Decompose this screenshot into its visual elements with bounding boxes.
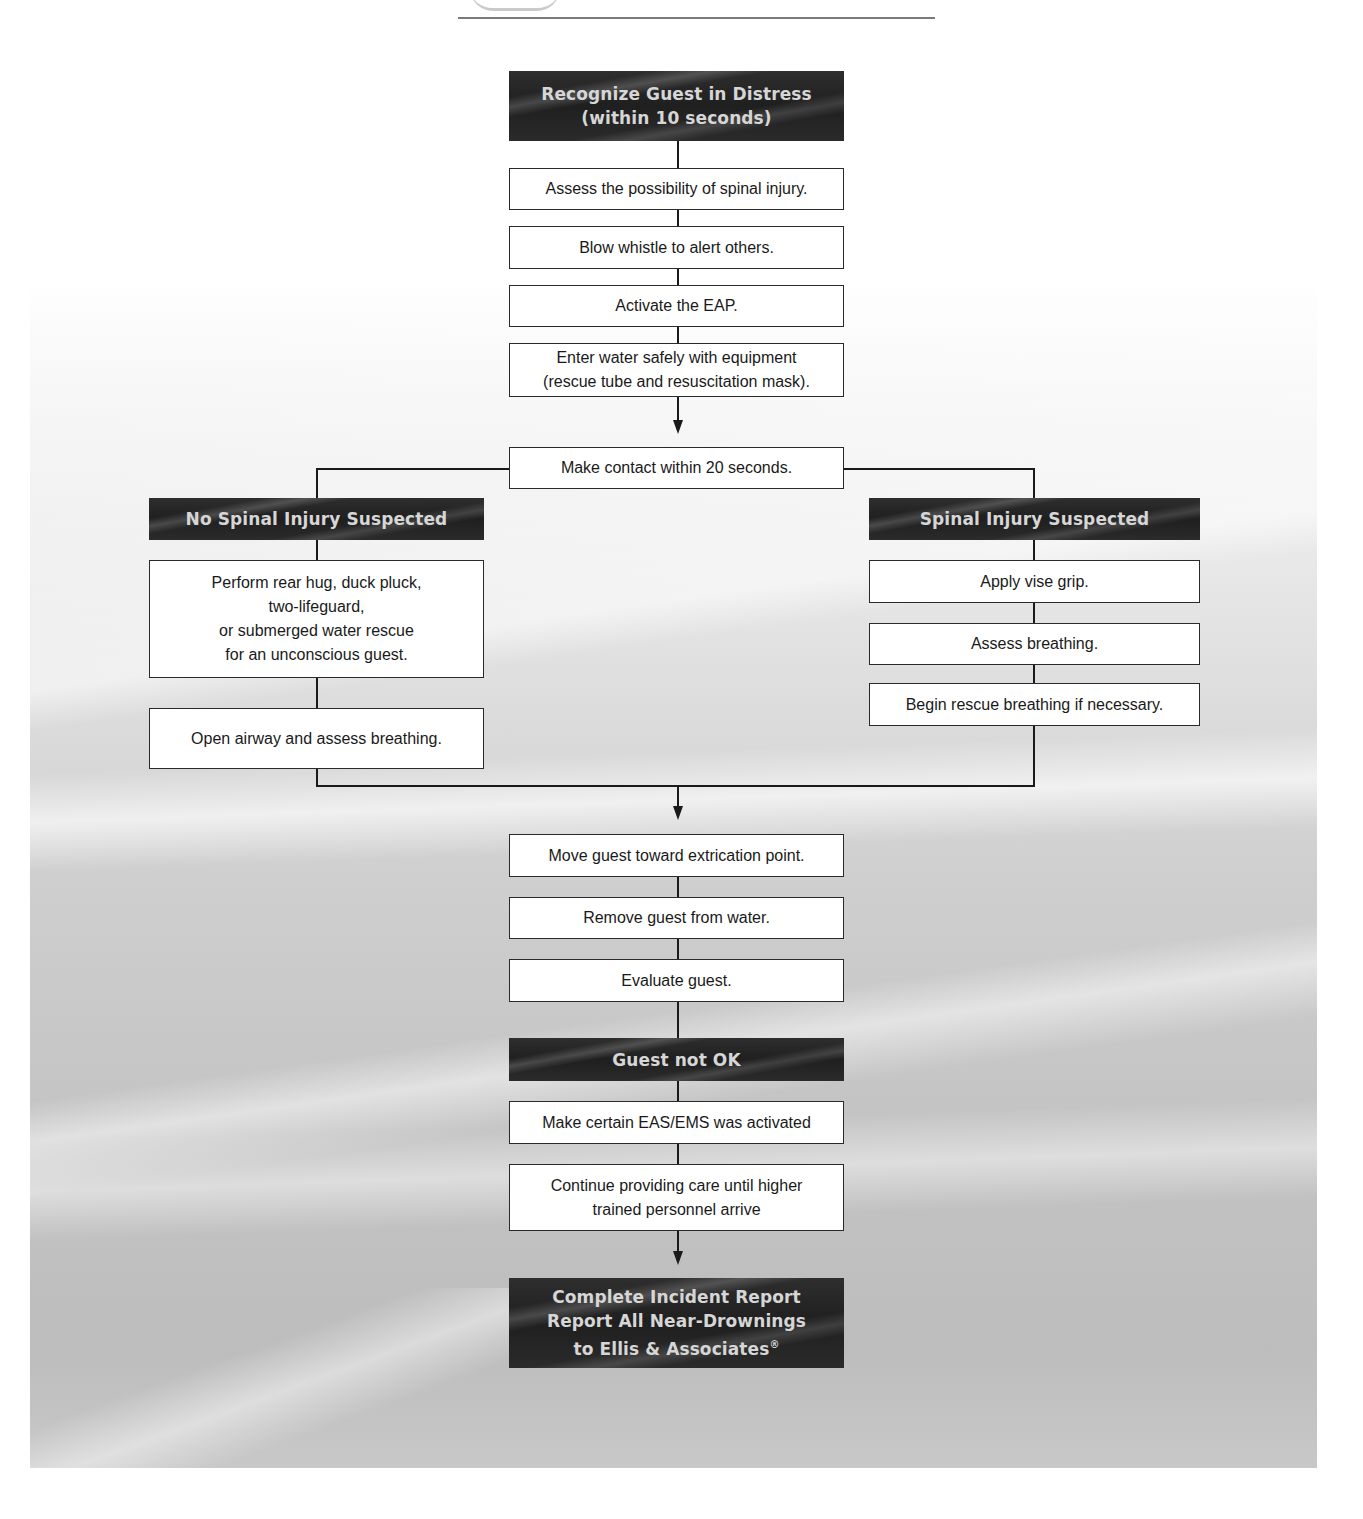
step-rescue-breathing: Begin rescue breathing if necessary. — [869, 683, 1200, 726]
connector — [677, 327, 679, 343]
connector — [677, 786, 679, 808]
step-enter-water: Enter water safely with equipment (rescu… — [509, 343, 844, 397]
step-move-guest: Move guest toward extrication point. — [509, 834, 844, 877]
step-label: Remove guest from water. — [583, 906, 770, 930]
step-label: Enter water safely with equipment (rescu… — [543, 346, 810, 394]
branch-connector-right — [844, 468, 1034, 470]
connector — [677, 1081, 679, 1101]
step-label: Assess breathing. — [971, 632, 1098, 656]
end-label: Complete Incident Report Report All Near… — [547, 1285, 806, 1361]
step-ems-activated: Make certain EAS/EMS was activated — [509, 1101, 844, 1144]
end-node: Complete Incident Report Report All Near… — [509, 1278, 844, 1368]
arrow-down-icon — [673, 1251, 683, 1265]
step-label: Move guest toward extrication point. — [548, 844, 804, 868]
step-activate-eap: Activate the EAP. — [509, 285, 844, 327]
start-node: Recognize Guest in Distress (within 10 s… — [509, 71, 844, 141]
connector — [316, 678, 318, 708]
connector — [677, 141, 679, 168]
branch-header-label: Spinal Injury Suspected — [920, 507, 1150, 531]
step-label: Blow whistle to alert others. — [579, 236, 774, 260]
merge-connector — [316, 785, 1035, 787]
branch-connector-left — [316, 468, 509, 470]
step-perform-rescue: Perform rear hug, duck pluck, two-lifegu… — [149, 560, 484, 678]
arrow-down-icon — [673, 420, 683, 434]
connector — [1033, 540, 1035, 560]
step-label: Make certain EAS/EMS was activated — [542, 1111, 811, 1135]
connector — [677, 1144, 679, 1164]
step-vise-grip: Apply vise grip. — [869, 560, 1200, 603]
connector — [1033, 665, 1035, 683]
connector — [677, 877, 679, 897]
branch-connector-right — [1033, 468, 1035, 498]
branch-header-no-spinal: No Spinal Injury Suspected — [149, 498, 484, 540]
step-label: Apply vise grip. — [980, 570, 1089, 594]
step-label: Continue providing care until higher tra… — [551, 1174, 803, 1222]
header-rule — [458, 17, 935, 19]
step-label: Assess the possibility of spinal injury. — [545, 177, 807, 201]
step-remove-guest: Remove guest from water. — [509, 897, 844, 939]
step-label: Perform rear hug, duck pluck, two-lifegu… — [212, 571, 422, 667]
arrow-down-icon — [673, 806, 683, 820]
step-label: Open airway and assess breathing. — [191, 727, 442, 751]
connector — [677, 269, 679, 285]
step-blow-whistle: Blow whistle to alert others. — [509, 226, 844, 269]
branch-header-label: No Spinal Injury Suspected — [186, 507, 448, 531]
branch-connector-left — [316, 468, 318, 498]
connector — [1033, 726, 1035, 787]
connector — [677, 1231, 679, 1253]
condition-label: Guest not OK — [612, 1048, 740, 1072]
step-make-contact: Make contact within 20 seconds. — [509, 447, 844, 489]
step-evaluate-guest: Evaluate guest. — [509, 959, 844, 1002]
connector — [677, 397, 679, 421]
step-label: Begin rescue breathing if necessary. — [906, 693, 1164, 717]
logo-fragment — [470, 0, 560, 11]
step-open-airway: Open airway and assess breathing. — [149, 708, 484, 769]
registered-mark: ® — [769, 1339, 779, 1350]
step-continue-care: Continue providing care until higher tra… — [509, 1164, 844, 1231]
step-label: Activate the EAP. — [615, 294, 737, 318]
connector — [316, 540, 318, 560]
connector — [677, 210, 679, 226]
condition-guest-not-ok: Guest not OK — [509, 1038, 844, 1081]
branch-header-spinal: Spinal Injury Suspected — [869, 498, 1200, 540]
connector — [677, 939, 679, 959]
step-assess-breathing: Assess breathing. — [869, 623, 1200, 665]
start-label: Recognize Guest in Distress (within 10 s… — [541, 82, 811, 130]
step-assess-spinal: Assess the possibility of spinal injury. — [509, 168, 844, 210]
connector — [677, 1002, 679, 1038]
step-label: Evaluate guest. — [621, 969, 731, 993]
step-label: Make contact within 20 seconds. — [561, 456, 792, 480]
connector — [1033, 603, 1035, 623]
